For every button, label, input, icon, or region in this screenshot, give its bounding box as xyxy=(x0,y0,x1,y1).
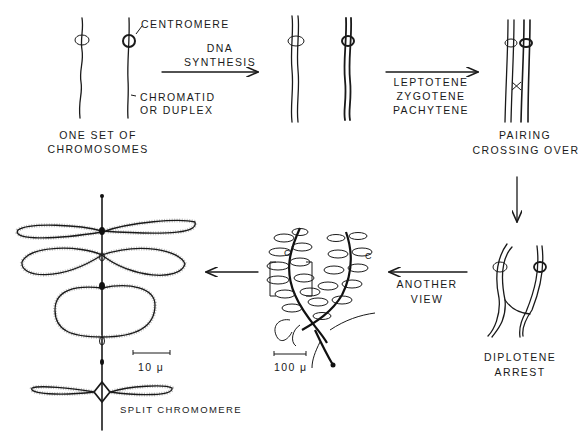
single-chromosome-stage xyxy=(75,18,142,118)
view-label: VIEW xyxy=(382,292,472,306)
scale-100-micron: 100 μ xyxy=(274,360,308,374)
another-label: ANOTHER xyxy=(382,277,472,291)
leptotene-label: LEPTOTENE xyxy=(376,75,486,89)
split-chromomere-label: SPLIT CHROMOMERE xyxy=(120,403,242,417)
loop-label-c-right: C xyxy=(365,249,373,263)
centromere-label: CENTROMERE xyxy=(141,17,230,31)
pachytene-label: PACHYTENE xyxy=(376,103,486,117)
diplotene-label: DIPLOTENE xyxy=(470,350,570,364)
zygotene-label: ZYGOTENE xyxy=(376,89,486,103)
dna-label: DNA xyxy=(190,41,250,55)
arrest-label: ARREST xyxy=(470,365,570,379)
crossing-over-label: CROSSING OVER xyxy=(466,143,583,157)
chromatid-label: CHROMATID xyxy=(140,90,215,104)
loop-label-c-left: C xyxy=(284,246,292,260)
pairing-label: PAIRING xyxy=(470,128,580,142)
scale-10-micron: 10 μ xyxy=(138,360,164,374)
one-set-label: ONE SET OF xyxy=(38,128,158,142)
lampbrush-loops-detail xyxy=(17,194,195,430)
chromosomes-label: CHROMOSOMES xyxy=(38,142,158,156)
duplex-label: OR DUPLEX xyxy=(140,103,213,117)
duplicated-chromosome-stage xyxy=(288,16,354,122)
synthesis-label: SYNTHESIS xyxy=(160,55,280,69)
pairing-stage xyxy=(505,20,532,122)
diplotene-stage xyxy=(488,244,546,337)
